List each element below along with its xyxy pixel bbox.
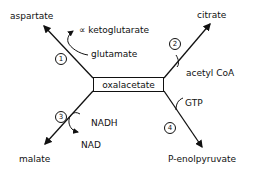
oxalacetate-box: oxalacetate bbox=[93, 77, 164, 92]
nad-label: NAD bbox=[81, 140, 101, 150]
gtp-label: GTP bbox=[185, 98, 203, 108]
aspartate-label: aspartate bbox=[10, 11, 53, 21]
penolpyruvate-label: P-enolpyruvate bbox=[168, 154, 236, 164]
step-1-badge: 1 bbox=[55, 53, 67, 65]
ketoglutarate-label: ∝ ketoglutarate bbox=[79, 25, 149, 35]
acetylcoa-label: acetyl CoA bbox=[186, 68, 234, 78]
malate-label: malate bbox=[19, 154, 50, 164]
acetylcoa-side-curve bbox=[176, 55, 179, 67]
step-4-badge: 4 bbox=[164, 122, 176, 134]
glutamate-label: glutamate bbox=[91, 49, 137, 59]
citrate-label: citrate bbox=[197, 10, 226, 20]
gtp-side-curve bbox=[176, 98, 183, 110]
step-3-badge: 3 bbox=[55, 111, 67, 123]
step-2-badge: 2 bbox=[169, 38, 181, 50]
nad-side-arrow bbox=[69, 113, 80, 132]
nadh-label: NADH bbox=[91, 118, 118, 128]
